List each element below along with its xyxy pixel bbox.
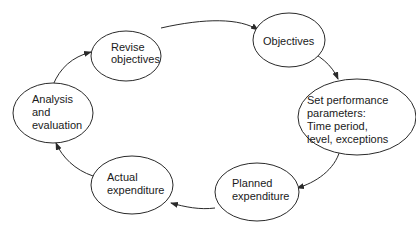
node-label: Actual xyxy=(107,171,138,183)
node-label: Revise xyxy=(111,41,145,53)
node-label: level, exceptions xyxy=(307,133,389,145)
node-label: Set performance xyxy=(307,94,388,106)
arrow-analysis-to-revise xyxy=(53,52,91,85)
node-label: Planned xyxy=(232,177,272,189)
node-label: expenditure xyxy=(107,184,165,196)
budget-cycle-diagram: Revise objectives Objectives Set perform… xyxy=(0,0,416,229)
node-label: objectives xyxy=(111,53,160,65)
node-label: and xyxy=(32,106,50,118)
arrow-planned-to-actual xyxy=(171,203,215,209)
node-label: parameters: xyxy=(307,107,366,119)
node-set-performance-parameters: Set performance parameters: Time period,… xyxy=(298,79,416,155)
node-label: Analysis xyxy=(32,93,73,105)
node-revise-objectives: Revise objectives xyxy=(91,31,161,81)
node-analysis-and-evaluation: Analysis and evaluation xyxy=(13,83,93,143)
node-actual-expenditure: Actual expenditure xyxy=(91,156,173,214)
node-planned-expenditure: Planned expenditure xyxy=(215,163,299,221)
node-label: Objectives xyxy=(263,35,315,47)
arrow-set-to-planned xyxy=(297,150,340,188)
node-objectives: Objectives xyxy=(253,13,325,67)
node-label: expenditure xyxy=(232,190,290,202)
arrow-actual-to-analysis xyxy=(56,143,93,176)
node-label: Time period, xyxy=(307,120,368,132)
arrow-revise-to-objectives xyxy=(161,21,258,30)
node-label: evaluation xyxy=(32,119,82,131)
